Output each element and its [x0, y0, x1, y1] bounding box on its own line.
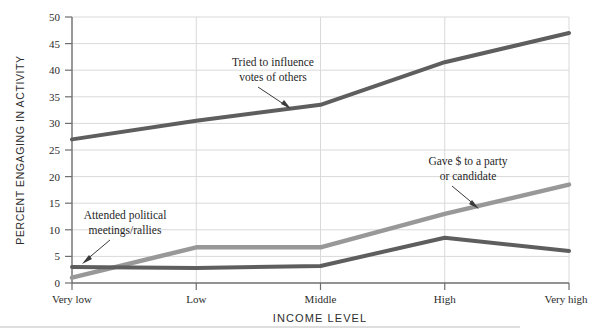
annotation-line-2: or candidate	[440, 170, 497, 182]
annotation-line-1: Gave $ to a party	[428, 155, 507, 168]
y-tick-label: 0	[55, 277, 61, 289]
y-tick-label: 15	[49, 197, 61, 209]
y-tick-label: 5	[55, 250, 61, 262]
x-tick-label-very-low: Very low	[52, 293, 92, 305]
y-tick-label: 20	[49, 171, 61, 183]
annotation-line-1: Attended political	[84, 209, 167, 222]
y-tick-label: 35	[49, 91, 61, 103]
y-tick-label: 40	[49, 64, 61, 76]
x-tick-label-high: High	[434, 293, 457, 305]
y-tick-label: 50	[49, 11, 61, 23]
y-tick-label: 30	[49, 117, 61, 129]
chart-figure: 50 45 40 35 30 25 20 15 10 5 0 Very low …	[0, 0, 593, 331]
y-tick-label: 25	[49, 144, 61, 156]
x-tick-label-low: Low	[186, 293, 206, 305]
line-chart-canvas: 50 45 40 35 30 25 20 15 10 5 0 Very low …	[0, 0, 593, 331]
y-tick-label: 10	[49, 224, 61, 236]
x-axis-title: INCOME LEVEL	[273, 312, 368, 324]
x-axis-ticks	[72, 283, 569, 290]
y-axis-ticks	[65, 17, 72, 283]
annotation-line-2: meetings/rallies	[89, 224, 162, 237]
y-axis-tick-labels: 50 45 40 35 30 25 20 15 10 5 0	[49, 11, 61, 289]
x-axis-tick-labels: Very low Low Middle High Very high	[52, 293, 588, 305]
annotation-line-2: votes of others	[239, 71, 307, 83]
y-tick-label: 45	[49, 38, 61, 50]
annotation-line-1: Tried to influence	[232, 56, 314, 68]
x-tick-label-middle: Middle	[305, 293, 337, 305]
x-tick-label-very-high: Very high	[544, 293, 588, 305]
y-axis-title: PERCENT ENGAGING IN ACTIVITY	[14, 55, 26, 244]
